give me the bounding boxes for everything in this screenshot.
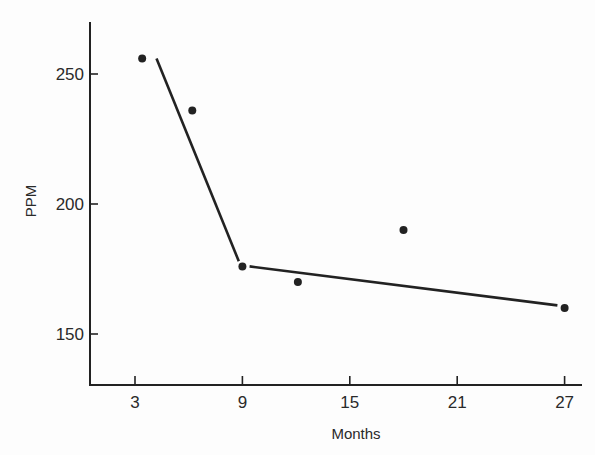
- y-tick-label: 250: [56, 65, 84, 84]
- y-axis-label: PPM: [22, 185, 39, 218]
- x-tick-label: 15: [340, 393, 359, 412]
- chart-canvas: 150200250 39152127 PPM Months: [0, 0, 595, 455]
- fit-lines: [157, 58, 558, 305]
- data-point: [238, 262, 246, 270]
- x-tick-label: 3: [130, 393, 139, 412]
- chart: 150200250 39152127 PPM Months: [0, 0, 595, 455]
- data-point: [561, 304, 569, 312]
- y-tick-label: 200: [56, 195, 84, 214]
- data-point: [294, 278, 302, 286]
- x-tick-label: 27: [555, 393, 574, 412]
- fit-line-fit-segment-1: [157, 58, 239, 261]
- x-axis-label: Months: [331, 425, 380, 442]
- fit-line-fit-segment-2: [250, 266, 558, 305]
- x-tick-label: 21: [448, 393, 467, 412]
- data-point: [188, 106, 196, 114]
- data-point: [400, 226, 408, 234]
- y-ticks: 150200250: [56, 65, 98, 344]
- y-tick-label: 150: [56, 325, 84, 344]
- x-ticks: 39152127: [130, 376, 574, 412]
- data-point: [138, 54, 146, 62]
- data-points: [138, 54, 568, 312]
- x-tick-label: 9: [238, 393, 247, 412]
